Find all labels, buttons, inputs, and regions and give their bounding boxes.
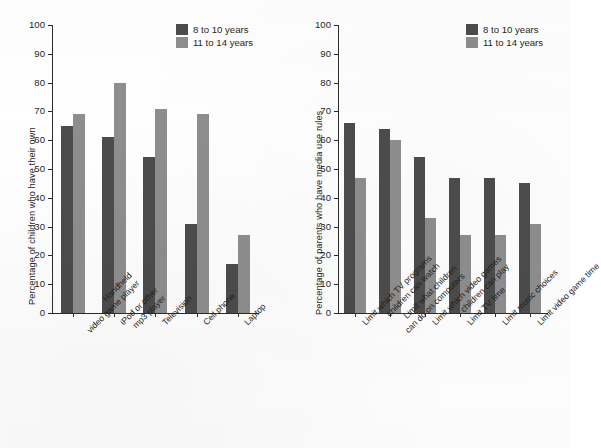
bar-groups-right [338, 25, 548, 313]
y-tick-label: 30 [320, 220, 331, 233]
legend-swatch [176, 24, 188, 35]
bar [355, 178, 366, 313]
y-tick-label: 50 [320, 162, 331, 175]
y-tick-label: 90 [34, 47, 45, 60]
bar-group [218, 25, 259, 313]
y-tick-label: 70 [320, 104, 331, 117]
plot-area-right: 0102030405060708090100 [338, 25, 548, 313]
y-tick-label: 80 [34, 76, 45, 89]
bar-groups-left [52, 25, 259, 313]
legend-entry: 8 to 10 years [176, 24, 253, 35]
legend-label: 8 to 10 years [483, 24, 538, 35]
legend-label: 11 to 14 years [483, 37, 543, 48]
y-tick-label: 30 [34, 220, 45, 233]
legend-label: 11 to 14 years [193, 37, 253, 48]
bar [197, 114, 209, 313]
y-tick-label: 20 [320, 248, 331, 261]
y-tick-label: 10 [320, 277, 331, 290]
bar-group [93, 25, 134, 313]
legend-entry: 11 to 14 years [176, 37, 253, 48]
y-tick-label: 20 [34, 248, 45, 261]
y-tick-label: 100 [315, 18, 331, 31]
bar-group [135, 25, 176, 313]
bar [344, 123, 355, 313]
y-tick-label: 70 [34, 104, 45, 117]
y-tick-label: 60 [320, 133, 331, 146]
plot-area-left: 0102030405060708090100 [52, 25, 259, 313]
x-axis-labels-right: Limit which TV programs children can wat… [290, 316, 570, 446]
x-axis-labels-left: Handheld video game playeriPod or other … [0, 316, 290, 446]
y-tick-label: 100 [29, 18, 45, 31]
y-tick-label: 90 [320, 47, 331, 60]
legend-swatch [176, 37, 188, 48]
bar-group [513, 25, 548, 313]
y-tick-label: 50 [34, 162, 45, 175]
bar-group [373, 25, 408, 313]
chart-children-own-media: Percentage of children who have their ow… [0, 0, 290, 448]
bar [155, 109, 167, 313]
bar-group [52, 25, 93, 313]
bar [73, 114, 85, 313]
y-tick-label: 40 [320, 191, 331, 204]
y-tick-label: 40 [34, 191, 45, 204]
legend-swatch [466, 37, 478, 48]
legend-entry: 11 to 14 years [466, 37, 543, 48]
legend-swatch [466, 24, 478, 35]
legend-right: 8 to 10 years11 to 14 years [466, 24, 543, 48]
legend-entry: 8 to 10 years [466, 24, 543, 35]
bar-group [338, 25, 373, 313]
bar [61, 126, 73, 313]
y-tick-label: 60 [34, 133, 45, 146]
bar [238, 235, 250, 313]
bar-group [176, 25, 217, 313]
legend-left: 8 to 10 years11 to 14 years [176, 24, 253, 48]
bar [379, 129, 390, 313]
y-tick-label: 10 [34, 277, 45, 290]
chart-parents-media-rules: Percentage of parents who have media use… [290, 0, 570, 448]
y-tick-label: 80 [320, 76, 331, 89]
legend-label: 8 to 10 years [193, 24, 248, 35]
